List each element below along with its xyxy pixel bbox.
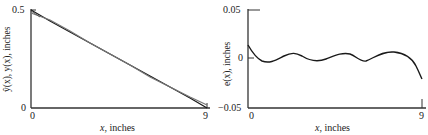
series-yhat-line (31, 13, 207, 105)
y-tick-label-zero: 0 (238, 53, 243, 63)
series-error-line (248, 45, 422, 79)
error-plot-area (214, 0, 428, 135)
x-tick-label-left: 0 (249, 111, 254, 121)
x-tick-label-right: 9 (419, 111, 424, 121)
y-tick-label-bottom: −0.05 (218, 103, 241, 113)
y-axis-label: ŷ(x), y(x), inches (2, 27, 12, 92)
x-axis-label-unit: , inches (319, 122, 350, 133)
y-tick-label-top: 0.05 (223, 5, 241, 15)
x-axis-label-unit: , inches (104, 122, 135, 133)
deflection-chart: 0.5 0 0 9 x, inches ŷ(x), y(x), inches (0, 0, 214, 135)
y-tick-label-top: 0.5 (12, 5, 25, 15)
x-tick-label-right: 9 (203, 111, 208, 121)
error-chart: 0.05 0 −0.05 0 9 x, inches e(x), inches (214, 0, 428, 135)
x-tick-label-left: 0 (30, 111, 35, 121)
x-axis-label: x, inches (100, 123, 135, 133)
y-tick-label-bottom: 0 (21, 103, 26, 113)
x-axis-label: x, inches (315, 123, 350, 133)
y-axis-label: e(x), inches (222, 42, 232, 86)
